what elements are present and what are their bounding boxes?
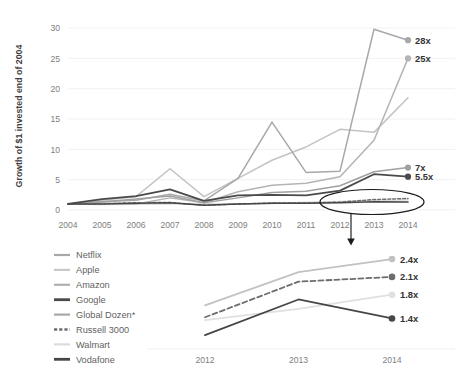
main-series-line-netflix (68, 29, 408, 204)
x-tick-label: 2004 (58, 220, 77, 230)
x-tick-label: 2014 (398, 220, 417, 230)
main-end-marker-global-dozen (405, 164, 411, 170)
main-end-label: 5.5x (415, 171, 434, 182)
x-tick-label: 2011 (297, 220, 316, 230)
inset-end-label: 2.1x (400, 271, 419, 282)
x-tick-label: 2010 (262, 220, 281, 230)
y-tick-label: 0 (55, 205, 60, 215)
legend-label-russell-3000[interactable]: Russell 3000 (76, 325, 129, 335)
x-tick-label: 2007 (160, 220, 179, 230)
y-tick-label: 20 (50, 84, 60, 94)
main-end-label: 25x (415, 53, 431, 64)
main-series-line-apple (68, 98, 408, 204)
zoom-arrow-head-icon (347, 239, 355, 246)
inset-x-tick-label: 2014 (382, 355, 401, 365)
inset-end-marker-global-dozen (389, 256, 396, 263)
x-tick-label: 2009 (228, 220, 247, 230)
inset-end-marker-vodafone (389, 315, 396, 322)
x-tick-label: 2012 (330, 220, 349, 230)
legend-label-walmart[interactable]: Walmart (76, 340, 110, 350)
legend-label-amazon[interactable]: Amazon (76, 280, 110, 290)
x-tick-label: 2006 (126, 220, 145, 230)
x-tick-label: 2005 (92, 220, 111, 230)
y-tick-label: 30 (50, 23, 60, 33)
legend-label-global-dozen[interactable]: Global Dozen* (76, 310, 136, 320)
inset-series-line-russell-3000 (205, 277, 392, 317)
inset-x-tick-label: 2013 (289, 355, 308, 365)
legend-label-apple[interactable]: Apple (76, 265, 100, 275)
chart-canvas: 051015202530Growth of $1 invested end of… (0, 0, 460, 379)
inset-x-tick-label: 2012 (195, 355, 214, 365)
inset-end-marker-walmart (389, 291, 396, 298)
main-end-marker-google (405, 174, 411, 180)
inset-end-marker-russell-3000 (389, 274, 396, 281)
inset-end-label: 1.8x (400, 289, 419, 300)
y-tick-label: 5 (55, 175, 60, 185)
y-axis-title: Growth of $1 invested end of 2004 (14, 45, 24, 188)
legend-label-google[interactable]: Google (76, 295, 106, 305)
main-end-marker-netflix (405, 37, 411, 43)
chart-figure: 051015202530Growth of $1 invested end of… (0, 0, 460, 379)
x-tick-label: 2008 (194, 220, 213, 230)
y-tick-label: 15 (50, 114, 60, 124)
legend-label-vodafone[interactable]: Vodafone (76, 355, 115, 365)
y-tick-label: 25 (50, 54, 60, 64)
main-end-marker-amazon (405, 55, 411, 61)
inset-end-label: 2.4x (400, 254, 419, 265)
x-tick-label: 2013 (364, 220, 383, 230)
inset-end-label: 1.4x (400, 313, 419, 324)
main-end-label: 28x (415, 35, 431, 46)
legend-label-netflix[interactable]: Netflix (76, 250, 102, 260)
y-tick-label: 10 (50, 145, 60, 155)
inset-series-line-walmart (205, 295, 392, 321)
